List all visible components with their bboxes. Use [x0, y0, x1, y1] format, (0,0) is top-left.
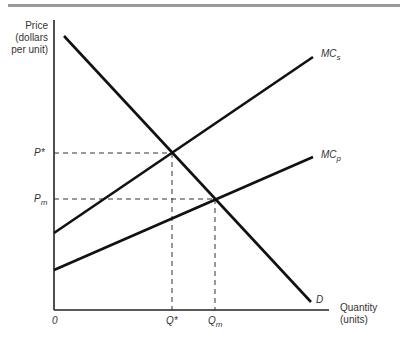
- mc-s-main: MC: [321, 48, 337, 59]
- mc-social-curve: [54, 57, 313, 233]
- y-axis-label: Price (dollars per unit): [6, 20, 48, 56]
- mc-private-label: MCp: [321, 149, 341, 161]
- mc-social-label: MCs: [321, 48, 341, 60]
- x-axis-label: Quantity (units): [340, 302, 377, 326]
- y-axis-label-line2: (dollars: [6, 32, 48, 44]
- origin-label: 0: [52, 315, 58, 327]
- y-axis-label-line3: per unit): [6, 44, 48, 56]
- demand-curve: [64, 36, 311, 302]
- mc-p-main: MC: [321, 149, 337, 160]
- p-m-main: P: [34, 193, 41, 204]
- p-star-label: P*: [34, 147, 45, 159]
- demand-label: D: [316, 294, 323, 306]
- y-axis-label-line1: Price: [6, 20, 48, 32]
- mc-s-sub: s: [337, 53, 341, 62]
- x-axis-label-line1: Quantity: [340, 302, 377, 314]
- mc-private-curve: [54, 157, 313, 270]
- mc-p-sub: p: [337, 154, 341, 163]
- q-m-label: Qm: [208, 315, 222, 327]
- p-m-label: Pm: [34, 193, 47, 205]
- x-axis-label-line2: (units): [340, 314, 377, 326]
- p-m-sub: m: [41, 198, 48, 207]
- q-m-sub: m: [216, 320, 223, 329]
- q-m-main: Q: [208, 315, 216, 326]
- q-star-label: Q*: [166, 315, 178, 327]
